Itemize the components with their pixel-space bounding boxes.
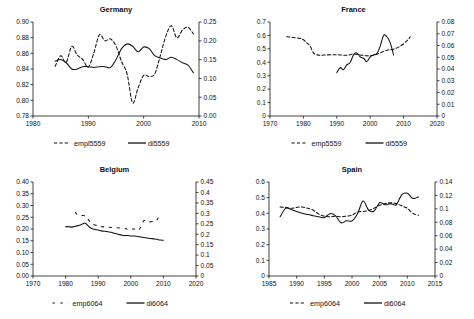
chart-panel-belgium: Belgium0.000.050.100.150.200.250.300.350…	[0, 160, 237, 319]
y-tick-label-right: 0.20	[204, 37, 217, 44]
y-tick-label-right: 0	[440, 272, 444, 279]
x-axis: 1985199019952000200520102015	[262, 276, 443, 287]
y-tick-label-left: 0.20	[16, 225, 29, 232]
y-tick-label-right: 0.25	[204, 18, 217, 25]
axes	[270, 22, 437, 116]
y-tick-label-right: 0.02	[442, 89, 455, 96]
y-tick-label-left: 0.84	[16, 65, 29, 72]
x-tick-label: 2000	[136, 120, 151, 127]
x-tick-label: 1990	[289, 280, 304, 287]
chart-legend: emp6064di6064	[290, 299, 406, 308]
y-tick-label-left: 0	[262, 112, 266, 119]
legend-label-di5559: di5559	[386, 139, 408, 148]
figure-root: Germany0.780.800.820.840.860.880.900.000…	[0, 0, 474, 319]
axes	[33, 22, 199, 116]
y-tick-label-left: 0.25	[16, 214, 29, 221]
x-tick-label: 1970	[26, 280, 41, 287]
y-tick-label-right: 0.25	[201, 220, 214, 227]
y-tick-label-left: 0.15	[16, 237, 29, 244]
y-tick-label-right: 0.05	[204, 94, 217, 101]
y-tick-label-left: 0.3	[257, 72, 266, 79]
y-tick-label-right: 0.08	[442, 18, 455, 25]
chart-title: France	[341, 5, 366, 14]
chart-legend: emp5559di5559	[292, 139, 408, 148]
x-tick-label: 2000	[363, 120, 378, 127]
y-tick-label-left: 0.40	[16, 178, 29, 185]
y-axis-left: 0.000.050.100.150.200.250.300.350.40	[16, 178, 33, 279]
y-tick-label-right: 0.02	[440, 259, 453, 266]
y-tick-label-left: 0.2	[256, 241, 265, 248]
y-axis-left: 00.10.20.30.40.50.60.7	[257, 18, 270, 119]
y-tick-label-left: 0.5	[257, 45, 266, 52]
y-tick-label-right: 0.07	[442, 30, 455, 37]
y-tick-label-left: 0.4	[256, 210, 265, 217]
legend-label-di6064: di6064	[147, 299, 169, 308]
y-tick-label-right: 0.04	[440, 245, 453, 252]
chart-legend: empl5559di5559	[54, 139, 170, 148]
x-tick-label: 1990	[91, 280, 106, 287]
y-tick-label-right: 0.10	[204, 75, 217, 82]
y-tick-label-right: 0.3	[201, 210, 210, 217]
y-tick-label-right: 0.01	[442, 101, 455, 108]
legend-label-di5559: di5559	[148, 139, 170, 148]
y-tick-label-right: 0.03	[442, 77, 455, 84]
x-tick-label: 1985	[262, 280, 277, 287]
legend-label-emp5559: emp5559	[312, 139, 342, 148]
y-axis-left: 0.780.800.820.840.860.880.90	[16, 18, 33, 119]
series-line-di6064	[66, 223, 164, 240]
x-tick-label: 2005	[372, 280, 387, 287]
y-tick-label-right: 0	[201, 272, 205, 279]
chart-panel-spain: Spain00.10.20.30.40.50.600.020.040.060.0…	[237, 160, 474, 319]
y-axis-left: 00.10.20.30.40.50.6	[256, 178, 269, 279]
y-tick-label-left: 0.78	[16, 112, 29, 119]
y-tick-label-right: 0.15	[204, 56, 217, 63]
y-tick-label-right: 0.05	[201, 262, 214, 269]
y-tick-label-right: 0.1	[440, 205, 449, 212]
x-tick-label: 2020	[430, 120, 445, 127]
y-tick-label-left: 0.3	[256, 225, 265, 232]
x-tick-label: 1970	[263, 120, 278, 127]
y-axis-right: 0.000.050.100.150.200.25	[199, 18, 217, 119]
x-tick-label: 2015	[428, 280, 443, 287]
y-tick-label-right: 0.08	[440, 219, 453, 226]
x-tick-label: 2000	[345, 280, 360, 287]
y-tick-label-right: 0.45	[201, 178, 214, 185]
y-tick-label-right: 0.2	[201, 231, 210, 238]
y-tick-label-right: 0.05	[442, 54, 455, 61]
series-line-emp6064	[280, 203, 418, 217]
y-tick-label-left: 0.82	[16, 81, 29, 88]
y-tick-label-right: 0.14	[440, 178, 453, 185]
series-line-di5559	[337, 35, 394, 73]
chart-title: Germany	[100, 5, 133, 14]
chart-panel-germany: Germany0.780.800.820.840.860.880.900.000…	[0, 0, 237, 159]
axes	[33, 182, 196, 276]
x-tick-label: 1995	[317, 280, 332, 287]
y-tick-label-left: 0.86	[16, 50, 29, 57]
x-tick-label: 2010	[156, 280, 171, 287]
y-tick-label-left: 0.1	[257, 99, 266, 106]
chart-title: Belgium	[100, 165, 130, 174]
series-line-di5559	[55, 44, 193, 73]
y-tick-label-left: 0.2	[257, 85, 266, 92]
x-axis: 197019801990200020102020	[263, 116, 445, 127]
legend-label-emp6064: emp6064	[310, 299, 340, 308]
y-tick-label-right: 0.12	[440, 192, 453, 199]
x-tick-label: 2010	[400, 280, 415, 287]
x-tick-label: 1990	[329, 120, 344, 127]
y-tick-label-left: 0.80	[16, 97, 29, 104]
x-tick-label: 2020	[189, 280, 204, 287]
y-tick-label-right: 0.06	[442, 42, 455, 49]
y-tick-label-left: 0.05	[16, 261, 29, 268]
chart-title: Spain	[342, 165, 363, 174]
chart-svg-spain: Spain00.10.20.30.40.50.600.020.040.060.0…	[237, 160, 474, 319]
series-line-empl5559	[55, 26, 193, 103]
x-tick-label: 2000	[123, 280, 138, 287]
chart-svg-germany: Germany0.780.800.820.840.860.880.900.000…	[0, 0, 237, 159]
y-tick-label-right: 0.35	[201, 199, 214, 206]
y-tick-label-right: 0.00	[204, 112, 217, 119]
chart-svg-belgium: Belgium0.000.050.100.150.200.250.300.350…	[0, 160, 237, 319]
y-tick-label-left: 0.6	[257, 32, 266, 39]
y-tick-label-left: 0.30	[16, 202, 29, 209]
y-tick-label-left: 0.5	[256, 194, 265, 201]
y-tick-label-right: 0.4	[201, 189, 210, 196]
